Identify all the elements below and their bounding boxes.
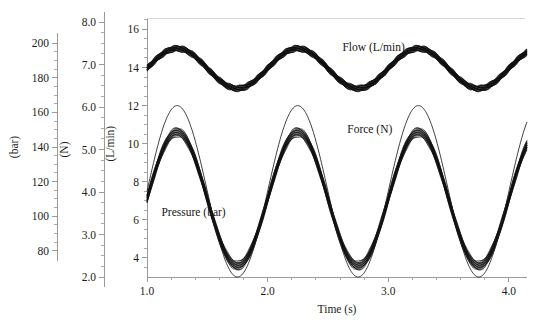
axis-pressure-tick-label: 160	[32, 106, 50, 118]
time-axis-tick-label: 1.0	[140, 285, 155, 297]
axis-force-tick-label: 5.0	[82, 144, 97, 156]
force-axis-group: 2.03.04.05.06.07.08.0(N)	[58, 12, 104, 287]
axis-pressure-tick-label: 80	[38, 245, 50, 257]
time-axis-title: Time (s)	[318, 303, 357, 316]
axis-pressure-tick-label: 140	[32, 141, 50, 153]
flow-axis-tick-label: 4	[133, 252, 139, 264]
axis-force-tick-label: 8.0	[82, 16, 97, 28]
multi-axis-time-series-chart: 80100120140160180200(bar) 2.03.04.05.06.…	[0, 0, 542, 322]
flow-axis-tick-label: 8	[133, 176, 139, 188]
flow-axis-tick-label: 14	[128, 62, 140, 74]
axis-force-tick-label: 6.0	[82, 101, 97, 113]
axis-pressure-tick-label: 120	[32, 176, 50, 188]
axis-force-tick-label: 7.0	[82, 59, 97, 71]
force-series-label: Force (N)	[347, 123, 392, 136]
pressure-series-curve	[147, 128, 527, 270]
axis-pressure-tick-label: 200	[32, 37, 50, 49]
time-axis-tick-label: 2.0	[260, 285, 275, 297]
figure-container: 80100120140160180200(bar) 2.03.04.05.06.…	[0, 0, 542, 322]
axis-pressure-title: (bar)	[8, 136, 21, 159]
axis-pressure-tick-label: 100	[32, 210, 50, 222]
flow-series-label: Flow (L/min)	[342, 41, 404, 54]
pressure-axis-group: 80100120140160180200(bar)	[8, 33, 57, 260]
axis-pressure-tick-label: 180	[32, 72, 50, 84]
time-axis-tick-label: 4.0	[502, 285, 517, 297]
time-axis-group: 1.02.03.04.0Time (s)	[140, 277, 527, 316]
pressure-series-label: Pressure (bar)	[161, 206, 225, 219]
flow-axis-tick-label: 10	[128, 138, 140, 150]
axis-force-tick-label: 4.0	[82, 186, 97, 198]
flow-axis-tick-label: 6	[133, 214, 139, 226]
flow-axis-group: 46810121416(L/min)	[104, 18, 147, 277]
axis-force-tick-label: 2.0	[82, 271, 97, 283]
flow-axis-tick-label: 16	[128, 23, 140, 35]
flow-axis-title: (L/min)	[104, 126, 117, 162]
series-curves-group	[147, 45, 527, 277]
flow-series-curve	[147, 45, 527, 91]
flow-axis-tick-label: 12	[128, 100, 140, 112]
time-axis-tick-label: 3.0	[381, 285, 396, 297]
axis-force-title: (N)	[58, 141, 71, 157]
axis-force-tick-label: 3.0	[82, 229, 97, 241]
